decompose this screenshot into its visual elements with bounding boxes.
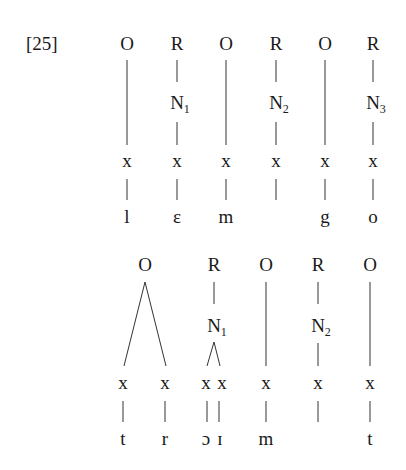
nucleus-label: N2: [269, 93, 289, 115]
segment: m: [259, 429, 274, 448]
tree-association-lines: [0, 0, 406, 470]
onset-label: O: [363, 255, 377, 274]
nucleus-label: N2: [311, 316, 331, 338]
nucleus-label: N1: [170, 93, 190, 115]
onset-label: O: [219, 34, 233, 53]
rhyme-label: R: [367, 34, 380, 53]
segment: t: [120, 429, 125, 448]
skeletal-slot: x: [160, 373, 170, 392]
skeletal-slot: x: [368, 151, 378, 170]
segment: r: [162, 429, 168, 448]
rhyme-label: R: [171, 34, 184, 53]
skeletal-slot: x: [217, 373, 227, 392]
onset-label: O: [259, 255, 273, 274]
skeletal-slot: x: [172, 151, 182, 170]
segment: ɔ: [202, 429, 210, 448]
skeletal-slot: x: [271, 151, 281, 170]
onset-label: O: [120, 34, 134, 53]
rhyme-label: R: [312, 255, 325, 274]
rhyme-label: R: [270, 34, 283, 53]
skeletal-slot: x: [221, 151, 231, 170]
segment: o: [368, 207, 378, 226]
segment: ɪ: [217, 429, 222, 448]
skeletal-slot: x: [261, 373, 271, 392]
rhyme-label: R: [208, 255, 221, 274]
skeletal-slot: x: [313, 373, 323, 392]
nucleus-label: N1: [207, 316, 227, 338]
nucleus-label: N3: [366, 93, 386, 115]
segment: ε: [173, 207, 181, 226]
segment: g: [320, 207, 330, 226]
skeletal-slot: x: [201, 373, 211, 392]
example-number: [25]: [26, 34, 58, 53]
segment: t: [367, 429, 372, 448]
skeletal-slot: x: [122, 151, 132, 170]
skeletal-slot: x: [320, 151, 330, 170]
skeletal-slot: x: [118, 373, 128, 392]
segment: l: [124, 207, 129, 226]
onset-label: O: [138, 255, 152, 274]
onset-label: O: [318, 34, 332, 53]
skeletal-slot: x: [365, 373, 375, 392]
segment: m: [219, 207, 234, 226]
